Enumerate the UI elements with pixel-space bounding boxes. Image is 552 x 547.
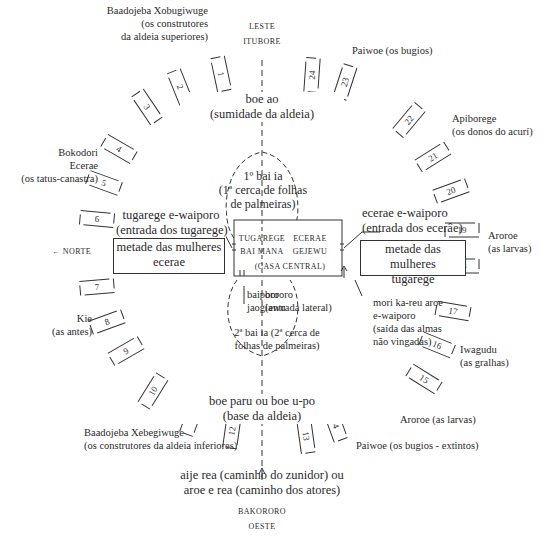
house-8: 8 bbox=[89, 310, 126, 335]
house-half-name: GEJEWU bbox=[290, 245, 330, 258]
clan-apiborege: Apiborege (os donos do acurí) bbox=[452, 112, 533, 138]
clan-name: Baadojeba Xebegiwuge bbox=[84, 426, 237, 439]
clan-name: Bokodori bbox=[10, 146, 98, 159]
boe-paru-sub: (base da aldeia) bbox=[172, 409, 352, 424]
house-7: 7 bbox=[79, 279, 114, 296]
half-ecerae-box: metade das mulheres ecerae bbox=[113, 238, 225, 274]
house-ring: 123456789101112131415161718192021222324 bbox=[0, 0, 552, 547]
house-10: 10 bbox=[138, 373, 168, 409]
compass-east-bororo: ITUBORE bbox=[232, 37, 292, 47]
clan-iwagudu: Iwagudu (as gralhas) bbox=[460, 343, 509, 369]
clan-desc: Ecerae bbox=[10, 159, 98, 172]
house-4: 4 bbox=[101, 134, 137, 163]
second-fence-label: 2ª bai ia (2ª cerca de folhas de palmeir… bbox=[216, 326, 338, 352]
first-fence-label: 1º bai ia (1ª cerca de folhas de palmeir… bbox=[206, 169, 320, 211]
aroe-e-rea-label: aroe e rea (caminho dos atores) bbox=[132, 483, 392, 498]
fence-name: 1º bai ia bbox=[206, 169, 320, 183]
house-half-name: ECERAE bbox=[290, 232, 330, 245]
entrance-desc: (entrada dos tugarege) bbox=[116, 223, 226, 238]
aije-rea-label: aije rea (caminho do zunidor) ou bbox=[132, 468, 392, 483]
clan-desc: (os construtores da aldeia inferiores) bbox=[84, 439, 237, 452]
boe-paru-label: boe paru ou boe u-po bbox=[172, 394, 352, 409]
house-half-name: BAI MANA bbox=[238, 245, 286, 258]
clan-aroroe-lower: Aroroe (as larvas) bbox=[400, 413, 476, 426]
compass-west-pt: OESTE bbox=[226, 522, 298, 532]
mori-exit-label: mori ka-reu aroe e-waiporo (saída das al… bbox=[373, 296, 443, 348]
clan-baadojeba-xebegiwuge: Baadojeba Xebegiwuge (os construtores da… bbox=[84, 426, 237, 452]
half-name: tugarege bbox=[361, 272, 465, 287]
house-9: 9 bbox=[108, 336, 144, 365]
tugarege-bai-mana: TUGAREGE BAI MANA bbox=[238, 232, 286, 258]
half-tugarege-box: metade das mulheres tugarege bbox=[360, 240, 466, 276]
house-15: 15 bbox=[406, 364, 442, 394]
clan-desc: (as antes) bbox=[40, 325, 92, 338]
clan-name: Aroroe bbox=[488, 229, 531, 242]
fence-desc: (1ª cerca de folhas bbox=[206, 183, 320, 197]
clan-name: Iwagudu bbox=[460, 343, 509, 356]
ecerae-gejewu: ECERAE GEJEWU bbox=[290, 232, 330, 258]
entrance-desc: (entrada lateral) bbox=[265, 301, 332, 314]
house-24: 24 bbox=[304, 58, 320, 93]
house-20: 20 bbox=[433, 179, 470, 204]
clan-kie: Kie (as antes) bbox=[40, 312, 92, 338]
entrance-name: bororo bbox=[265, 288, 332, 301]
half-label: metade das mulheres bbox=[114, 240, 224, 255]
exit-desc: não vingadas) bbox=[373, 335, 443, 348]
base-of-village-label: boe paru ou boe u-po (base da aldeia) bbox=[172, 394, 352, 424]
fence-desc: folhas de palmeiras) bbox=[216, 339, 338, 352]
clan-desc: da aldeia superiores) bbox=[96, 30, 208, 43]
half-label: metade das mulheres bbox=[361, 242, 465, 272]
ecerae-entrance-label: ecerae e-waiporo (entrada dos ecerâe) bbox=[362, 206, 463, 236]
clan-desc: (as gralhas) bbox=[460, 356, 509, 369]
compass-east-pt: LESTE bbox=[232, 22, 292, 32]
exit-name: e-waiporo bbox=[373, 309, 443, 322]
house-3: 3 bbox=[132, 89, 163, 125]
compass-west-bororo: BAKORORO bbox=[226, 507, 298, 517]
clan-desc: (os donos do acurí) bbox=[452, 125, 533, 138]
clan-baadojeba-xobugiwuge: Baadojeba Xobugiwuge (os construtores da… bbox=[96, 4, 208, 43]
clan-desc: (os tatus-canastra) bbox=[10, 172, 98, 185]
boe-ao-label: boe ao bbox=[180, 92, 344, 107]
path-label: aije rea (caminho do zunidor) ou aroe e … bbox=[132, 468, 392, 498]
clan-paiwoe: Paiwoe (os bugios) bbox=[352, 44, 433, 57]
compass-east: LESTE ITUBORE bbox=[232, 22, 292, 47]
exit-desc: (saída das almas bbox=[373, 322, 443, 335]
house-22: 22 bbox=[393, 102, 426, 137]
clan-name: Baadojeba Xobugiwuge bbox=[96, 4, 208, 17]
tugarege-entrance-label: tugarege e-waiporo (entrada dos tugarege… bbox=[116, 208, 226, 238]
compass-west: BAKORORO OESTE bbox=[226, 507, 298, 532]
entrance-desc: (entrada dos ecerâe) bbox=[362, 221, 463, 236]
compass-north: ← NORTE bbox=[52, 247, 91, 257]
fence-desc: de palmeiras) bbox=[206, 197, 320, 211]
house-number: 24 bbox=[307, 70, 318, 80]
house-1: 1 bbox=[211, 56, 232, 92]
entrance-name: ecerae e-waiporo bbox=[362, 206, 463, 221]
clan-bokodori-ecerae: Bokodori Ecerae (os tatus-canastra) bbox=[10, 146, 98, 185]
clan-name: Kie bbox=[40, 312, 92, 325]
exit-name: mori ka-reu aroe bbox=[373, 296, 443, 309]
house-6: 6 bbox=[79, 211, 114, 228]
clan-paiwoe-extintos: Paiwoe (os bugios - extintos) bbox=[356, 439, 479, 452]
clan-desc: (os construtores bbox=[96, 17, 208, 30]
boe-ao-sub: (sumidade da aldeia) bbox=[180, 107, 344, 122]
clan-aroroe-upper: Aroroe (as larvas) bbox=[488, 229, 531, 255]
house-21: 21 bbox=[415, 142, 451, 172]
clan-desc: (as larvas) bbox=[488, 242, 531, 255]
casa-central-label: (CASA CENTRAL) bbox=[246, 262, 334, 272]
clan-name: Apiborege bbox=[452, 112, 533, 125]
fence-name: 2ª bai ia (2ª cerca de bbox=[216, 326, 338, 339]
house-half-name: TUGAREGE bbox=[238, 232, 286, 245]
bororo-entrance-label: bororo (entrada lateral) bbox=[265, 288, 332, 314]
half-name: ecerae bbox=[114, 255, 224, 270]
top-of-village-label: boe ao (sumidade da aldeia) bbox=[180, 92, 344, 122]
